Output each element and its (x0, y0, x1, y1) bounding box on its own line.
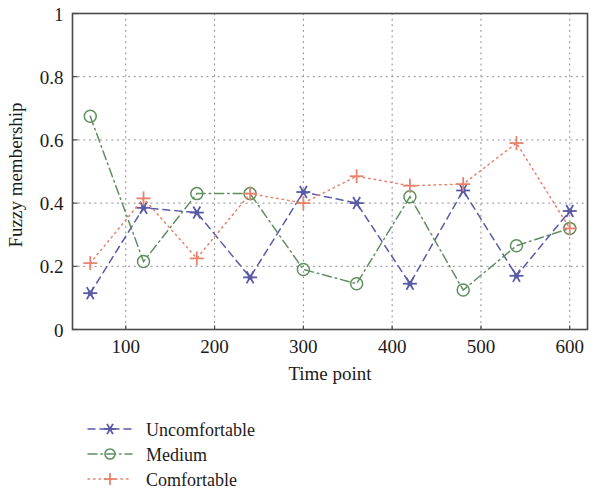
x-tick-label: 200 (200, 336, 229, 357)
y-tick-label: 0.6 (40, 130, 64, 151)
chart-figure: 100200300400500600 00.20.40.60.81 Time p… (0, 0, 612, 491)
chart-background (0, 0, 612, 491)
y-axis-title: Fuzzy membership (5, 102, 26, 247)
marker-core (354, 201, 359, 206)
x-tick-label: 600 (555, 336, 584, 357)
y-tick-label: 1 (54, 4, 64, 25)
marker-core (407, 281, 412, 286)
y-tick-label: 0.4 (40, 193, 64, 214)
x-tick-label: 500 (467, 336, 496, 357)
y-tick-label: 0.2 (40, 256, 64, 277)
marker-core (194, 210, 199, 215)
marker-core (108, 427, 112, 431)
x-tick-label: 300 (289, 336, 318, 357)
marker-core (567, 208, 572, 213)
fuzzy-membership-line-chart: 100200300400500600 00.20.40.60.81 Time p… (0, 0, 612, 491)
marker-core (247, 275, 252, 280)
marker-core (301, 189, 306, 194)
legend-label: Comfortable (146, 470, 237, 490)
y-tick-label: 0 (54, 320, 64, 341)
y-tick-label: 0.8 (40, 67, 64, 88)
legend-label: Medium (146, 445, 207, 465)
x-axis-title: Time point (288, 363, 372, 384)
marker-core (88, 291, 93, 296)
x-tick-label: 400 (378, 336, 407, 357)
x-tick-label: 100 (112, 336, 141, 357)
marker-core (514, 273, 519, 278)
marker-core (141, 205, 146, 210)
legend-label: Uncomfortable (146, 420, 255, 440)
